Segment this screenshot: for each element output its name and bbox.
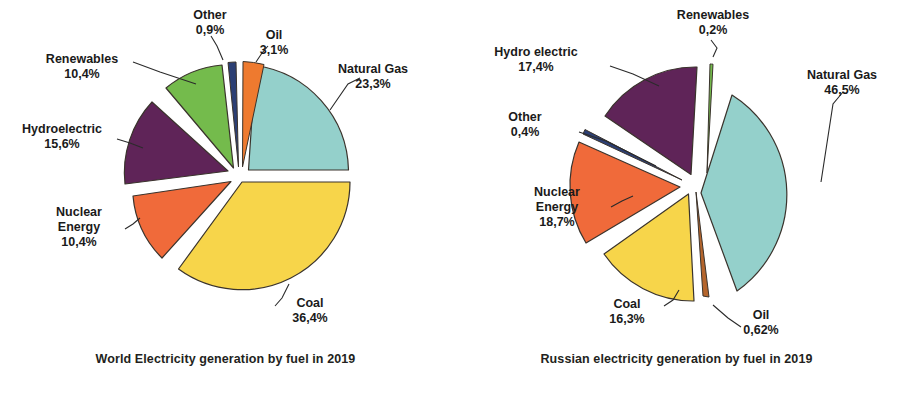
- label-coal: Coal 36,4%: [276, 296, 344, 326]
- label-nuclear-value: 10,4%: [36, 235, 122, 250]
- label-natural-gas: Natural Gas 23,3%: [318, 62, 428, 92]
- label-hydroelectric: Hydroelectric 15,6%: [8, 122, 116, 152]
- label-nuclear-name2: Energy: [36, 220, 122, 235]
- label-nuclear-name: Nuclear: [36, 205, 122, 220]
- label-other-value: 0,9%: [164, 23, 256, 38]
- label-coal-value: 36,4%: [276, 311, 344, 326]
- label-hydroelectric-name: Hydroelectric: [8, 122, 116, 137]
- label-natural-gas-name: Natural Gas: [787, 68, 897, 83]
- pie-slice-natural-gas[interactable]: [701, 95, 787, 291]
- label-coal: Coal 16,3%: [593, 297, 661, 327]
- leader-line-natural-gas: [821, 92, 843, 182]
- label-nuclear-value: 18,7%: [511, 215, 603, 230]
- label-natural-gas: Natural Gas 46,5%: [787, 68, 897, 98]
- label-other: Other 0,4%: [487, 110, 563, 140]
- chart-caption-russia: Russian electricity generation by fuel i…: [451, 352, 902, 366]
- leader-line-renewables: [711, 40, 717, 57]
- pie-slice-hydroelectric[interactable]: [605, 67, 697, 175]
- label-nuclear: Nuclear Energy 18,7%: [511, 185, 603, 230]
- label-oil: Oil 0,62%: [723, 308, 799, 338]
- label-nuclear-name2: Energy: [511, 200, 603, 215]
- label-renewables-value: 10,4%: [28, 67, 136, 82]
- label-renewables-name: Renewables: [28, 52, 136, 67]
- world-pie-slices: [124, 62, 350, 290]
- leader-line-nuclear: [125, 218, 140, 229]
- label-coal-name: Coal: [276, 296, 344, 311]
- label-coal-value: 16,3%: [593, 312, 661, 327]
- label-hydroelectric: Hydro electric 17,4%: [471, 45, 601, 75]
- label-natural-gas-value: 46,5%: [787, 83, 897, 98]
- label-oil-value: 3,1%: [244, 43, 304, 58]
- label-natural-gas-value: 23,3%: [318, 77, 428, 92]
- label-nuclear-name: Nuclear: [511, 185, 603, 200]
- label-hydroelectric-name: Hydro electric: [471, 45, 601, 60]
- label-renewables-name: Renewables: [659, 8, 767, 23]
- chart-russian-electricity: Renewables 0,2% Hydro electric 17,4% Oth…: [451, 0, 902, 397]
- label-renewables: Renewables 0,2%: [659, 8, 767, 38]
- label-hydroelectric-value: 17,4%: [471, 60, 601, 75]
- label-renewables: Renewables 10,4%: [28, 52, 136, 82]
- label-oil-name: Oil: [244, 28, 304, 43]
- label-oil: Oil 3,1%: [244, 28, 304, 58]
- chart-caption-world: World Electricity generation by fuel in …: [0, 352, 451, 366]
- label-other-name: Other: [487, 110, 563, 125]
- leader-line-renewables: [133, 62, 196, 84]
- label-renewables-value: 0,2%: [659, 23, 767, 38]
- label-hydroelectric-value: 15,6%: [8, 137, 116, 152]
- label-other-value: 0,4%: [487, 125, 563, 140]
- label-oil-value: 0,62%: [723, 323, 799, 338]
- leader-line-other: [211, 36, 223, 60]
- label-other-name: Other: [164, 8, 256, 23]
- russia-pie-slices: [570, 64, 787, 301]
- label-other: Other 0,9%: [164, 8, 256, 38]
- label-oil-name: Oil: [723, 308, 799, 323]
- chart-world-electricity: Other 0,9% Oil 3,1% Renewables 10,4% Nat…: [0, 0, 451, 397]
- label-natural-gas-name: Natural Gas: [318, 62, 428, 77]
- label-coal-name: Coal: [593, 297, 661, 312]
- label-nuclear: Nuclear Energy 10,4%: [36, 205, 122, 250]
